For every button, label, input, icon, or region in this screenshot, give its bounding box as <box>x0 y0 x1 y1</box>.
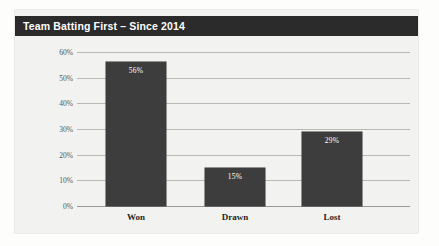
y-axis-tick-0: 0% <box>33 202 73 211</box>
bar-won[interactable]: 56% <box>106 62 166 206</box>
plot-area: 60% 50% 40% 30% 20% 10% 0% 56% 15% 29% W… <box>15 10 418 233</box>
y-axis-tick-60: 60% <box>33 48 73 57</box>
bar-value-drawn: 15% <box>205 172 265 181</box>
y-axis-tick-40: 40% <box>33 99 73 108</box>
gridline-0-baseline <box>77 206 410 207</box>
y-axis-tick-10: 10% <box>33 176 73 185</box>
bar-value-lost: 29% <box>302 136 362 145</box>
gridline-60 <box>77 52 410 53</box>
page-background: Team Batting First – Since 2014 60% 50% … <box>0 0 439 246</box>
bar-drawn[interactable]: 15% <box>205 168 265 207</box>
y-axis-tick-20: 20% <box>33 150 73 159</box>
x-axis-label-drawn: Drawn <box>190 212 280 222</box>
x-axis-label-won: Won <box>91 212 181 222</box>
y-axis-tick-30: 30% <box>33 125 73 134</box>
chart-panel: Team Batting First – Since 2014 60% 50% … <box>15 10 418 233</box>
x-axis-label-lost: Lost <box>287 212 377 222</box>
y-axis-tick-50: 50% <box>33 73 73 82</box>
bar-lost[interactable]: 29% <box>302 132 362 206</box>
bar-value-won: 56% <box>106 66 166 75</box>
